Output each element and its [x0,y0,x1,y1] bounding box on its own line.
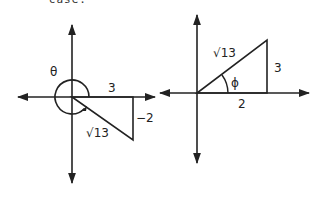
left-hypotenuse-label: √13 [86,126,109,140]
theta-label: θ [50,65,57,79]
phi-arc [222,75,228,93]
diagram-canvas: θ 3 −2 √13 √13 ϕ 3 2 [0,0,319,199]
left-diagram: θ 3 −2 √13 [18,25,155,183]
phi-label: ϕ [231,76,239,90]
right-diagram: √13 ϕ 3 2 [160,15,309,163]
left-opposite-label: −2 [136,111,154,125]
right-hypotenuse-label: √13 [213,46,236,60]
right-opposite-label: 3 [274,61,282,75]
right-adjacent-label: 2 [238,97,246,111]
left-adjacent-label: 3 [108,81,116,95]
